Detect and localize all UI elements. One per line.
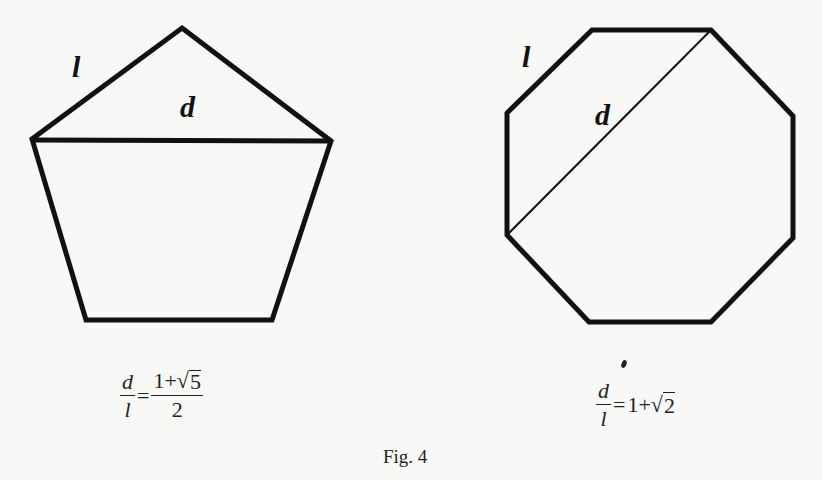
rhs-one-plus: 1+ <box>627 392 650 418</box>
octagon-ratio-formula: d l = 1+ √2 <box>596 380 675 430</box>
ink-dot <box>620 359 627 368</box>
rhs-one-plus: 1+ <box>153 368 176 393</box>
lhs-denominator: l <box>120 395 135 421</box>
pentagon-ratio-formula: d l = 1+√5 2 <box>120 370 203 421</box>
equals-sign: = <box>613 392 625 418</box>
pentagon-diagonal <box>32 140 331 141</box>
rhs-denominator: 2 <box>151 395 203 421</box>
pentagon-side-label: l <box>72 52 80 82</box>
radical-icon: √ <box>651 392 663 418</box>
octagon-diagonal-label: d <box>595 100 610 130</box>
octagon-side-label: l <box>522 42 530 72</box>
sqrt-two: √2 <box>651 392 675 419</box>
sqrt-five: √5 <box>177 370 201 393</box>
octagon-shape <box>507 30 793 322</box>
lhs-denominator: l <box>596 404 611 430</box>
rhs-fraction: 1+√5 2 <box>151 370 203 421</box>
equals-sign: = <box>137 383 149 409</box>
lhs-fraction: d l <box>596 380 611 430</box>
radical-icon: √ <box>177 370 189 392</box>
radicand: 2 <box>663 392 675 419</box>
octagon-diagonal <box>507 30 711 235</box>
pentagon-diagonal-label: d <box>180 92 195 122</box>
lhs-numerator: d <box>120 371 135 395</box>
lhs-numerator: d <box>596 380 611 404</box>
lhs-fraction: d l <box>120 371 135 421</box>
figure-caption: Fig. 4 <box>383 446 427 468</box>
rhs-numerator: 1+√5 <box>151 370 203 395</box>
radicand: 5 <box>189 370 201 393</box>
